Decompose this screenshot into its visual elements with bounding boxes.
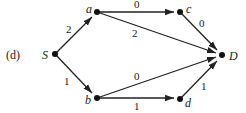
edges (55, 12, 217, 99)
node-label-c: c (186, 2, 192, 16)
weight-a-c: 0 (134, 0, 140, 10)
graph-diagram: (d) 2 1 0 2 0 0 1 1 S a b c D d (0, 0, 246, 113)
node-label-b: b (85, 93, 91, 107)
node-b (94, 95, 100, 101)
edge-S-a (55, 17, 92, 54)
node-label-S: S (42, 48, 48, 62)
node-a (94, 9, 100, 15)
weight-S-b: 1 (64, 75, 70, 87)
edge-S-b (55, 54, 92, 93)
weight-b-d: 1 (134, 100, 140, 112)
node-labels: S a b c D d (42, 2, 238, 110)
weight-d-D: 1 (201, 80, 207, 92)
weight-c-D: 0 (199, 17, 205, 29)
node-S (52, 51, 58, 57)
node-d (177, 96, 183, 102)
node-label-D: D (228, 49, 238, 63)
weight-a-D: 2 (132, 27, 138, 39)
node-D (219, 52, 225, 58)
node-label-d: d (185, 96, 192, 110)
figure-label: (d) (6, 48, 20, 62)
edge-d-D (180, 61, 217, 99)
weight-b-D: 0 (134, 70, 140, 82)
node-c (177, 9, 183, 15)
node-label-a: a (86, 2, 92, 16)
weight-S-a: 2 (66, 23, 72, 35)
edge-b-D (97, 57, 216, 98)
